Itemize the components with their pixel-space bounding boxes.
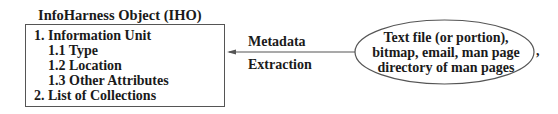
ellipse-line-3: directory of man pages: [360, 60, 532, 75]
item-other-attributes: 1.3 Other Attributes: [48, 73, 169, 88]
arrow-label-extraction: Extraction: [248, 57, 312, 73]
ellipse-line-1: Text file (or portion),: [360, 30, 532, 45]
item-type: 1.1 Type: [48, 43, 98, 58]
iho-title: InfoHarness Object (IHO): [38, 7, 202, 24]
arrow-label-metadata: Metadata: [248, 34, 306, 50]
trailing-comma: ,: [536, 43, 540, 59]
source-ellipse-text: Text file (or portion), bitmap, email, m…: [360, 30, 532, 75]
ellipse-line-2: bitmap, email, man page: [360, 45, 532, 60]
item-location: 1.2 Location: [48, 58, 122, 73]
item-information-unit: 1. Information Unit: [34, 28, 151, 43]
arrowhead-icon: [227, 50, 236, 55]
item-list-of-collections: 2. List of Collections: [34, 88, 156, 103]
